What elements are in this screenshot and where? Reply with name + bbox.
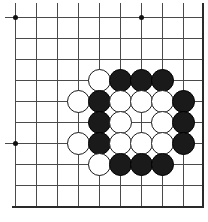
- grid-line-vertical-2: [57, 3, 58, 206]
- white-stone[interactable]: [109, 111, 132, 134]
- grid-line-horizontal-0: [15, 17, 202, 18]
- white-stone[interactable]: [151, 132, 174, 155]
- grid-line-vertical-top-ext-2: [57, 3, 58, 17]
- black-stone[interactable]: [88, 111, 111, 134]
- grid-line-vertical-0: [15, 3, 16, 206]
- white-stone[interactable]: [151, 90, 174, 113]
- grid-line-vertical-top-ext-7: [162, 3, 163, 17]
- black-stone[interactable]: [172, 132, 195, 155]
- white-stone[interactable]: [88, 153, 111, 176]
- white-stone[interactable]: [88, 69, 111, 92]
- black-stone[interactable]: [151, 69, 174, 92]
- grid-line-horizontal-1: [15, 38, 202, 39]
- grid-line-vertical-top-ext-4: [99, 3, 100, 17]
- white-stone[interactable]: [67, 132, 90, 155]
- board-edge-right: [202, 3, 204, 208]
- black-stone[interactable]: [109, 153, 132, 176]
- black-stone[interactable]: [130, 153, 153, 176]
- white-stone[interactable]: [130, 90, 153, 113]
- grid-line-vertical-top-ext-3: [78, 3, 79, 17]
- board-edge-bottom: [12, 206, 204, 208]
- white-stone[interactable]: [130, 132, 153, 155]
- black-stone[interactable]: [88, 90, 111, 113]
- black-stone[interactable]: [151, 153, 174, 176]
- star-point-top-left: [13, 15, 18, 20]
- black-stone[interactable]: [88, 132, 111, 155]
- black-stone[interactable]: [130, 69, 153, 92]
- grid-line-vertical-top-ext-5: [120, 3, 121, 17]
- black-stone[interactable]: [172, 111, 195, 134]
- star-point-top-right: [139, 15, 144, 20]
- go-board-diagram: [0, 0, 208, 222]
- star-point-bottom-left: [13, 141, 18, 146]
- white-stone[interactable]: [67, 90, 90, 113]
- grid-line-vertical-top-ext-1: [36, 3, 37, 17]
- black-stone[interactable]: [172, 90, 195, 113]
- white-stone[interactable]: [151, 111, 174, 134]
- grid-line-vertical-1: [36, 3, 37, 206]
- white-stone[interactable]: [109, 132, 132, 155]
- grid-line-vertical-top-ext-8: [183, 3, 184, 17]
- grid-line-horizontal-2: [15, 59, 202, 60]
- grid-line-horizontal-8: [15, 185, 202, 186]
- black-stone[interactable]: [109, 69, 132, 92]
- board-surface[interactable]: [0, 0, 208, 222]
- white-stone[interactable]: [109, 90, 132, 113]
